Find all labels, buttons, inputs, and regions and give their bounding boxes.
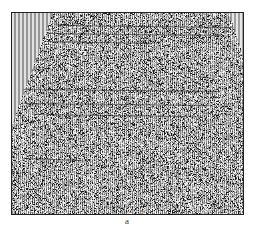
seismic-traces [12, 13, 243, 214]
seismic-section-plot [11, 12, 244, 215]
figure-caption: a [0, 216, 254, 226]
